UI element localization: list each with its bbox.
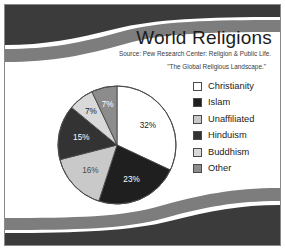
legend-item-label: Islam xyxy=(208,98,230,107)
slide-content: World Religions Source: Pew Research Cen… xyxy=(5,5,280,245)
legend-swatch-icon xyxy=(193,98,202,107)
page-title: World Religions xyxy=(136,27,272,49)
source-citation-line-2: "The Global Religious Landscape." xyxy=(167,63,266,70)
chart-legend: ChristianityIslamUnaffiliatedHinduismBud… xyxy=(193,78,279,177)
pie-slice-label: 7% xyxy=(85,107,97,116)
pie-slice-label: 16% xyxy=(82,166,98,175)
pie-slice-label: 7% xyxy=(102,100,114,109)
source-citation-line-1: Source: Pew Research Center: Religion & … xyxy=(119,50,271,57)
legend-item[interactable]: Islam xyxy=(193,95,279,112)
legend-swatch-icon xyxy=(193,115,202,124)
legend-swatch-icon xyxy=(193,164,202,173)
pie-slice-label: 23% xyxy=(123,175,139,184)
legend-item[interactable]: Unaffiliated xyxy=(193,111,279,128)
legend-item[interactable]: Christianity xyxy=(193,78,279,95)
pie-chart: 32%23%16%15%7%7% xyxy=(53,81,181,209)
pie-slice-label: 15% xyxy=(73,133,89,142)
legend-item-label: Buddhism xyxy=(208,148,249,157)
legend-item-label: Christianity xyxy=(208,82,254,91)
legend-item[interactable]: Hinduism xyxy=(193,128,279,145)
legend-swatch-icon xyxy=(193,131,202,140)
slide-canvas: World Religions Source: Pew Research Cen… xyxy=(0,0,285,250)
legend-item[interactable]: Other xyxy=(193,161,279,178)
legend-swatch-icon xyxy=(193,148,202,157)
pie-slice-label: 32% xyxy=(140,121,156,130)
legend-item-label: Hinduism xyxy=(208,131,247,140)
legend-item-label: Other xyxy=(208,164,231,173)
pie-slice-group xyxy=(58,86,176,204)
legend-swatch-icon xyxy=(193,82,202,91)
legend-item-label: Unaffiliated xyxy=(208,115,254,124)
pie-chart-svg: 32%23%16%15%7%7% xyxy=(53,81,181,209)
legend-item[interactable]: Buddhism xyxy=(193,144,279,161)
